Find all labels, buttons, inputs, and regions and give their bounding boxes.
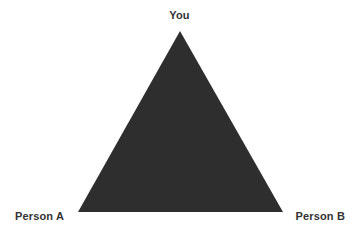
triangle-diagram: You Person A Person B: [0, 0, 357, 233]
vertex-label-top: You: [1, 9, 357, 21]
triangle-polygon: [78, 31, 283, 212]
vertex-label-bottom-right: Person B: [296, 210, 346, 222]
triangle-shape: [0, 0, 357, 233]
vertex-label-bottom-left: Person A: [15, 210, 64, 222]
